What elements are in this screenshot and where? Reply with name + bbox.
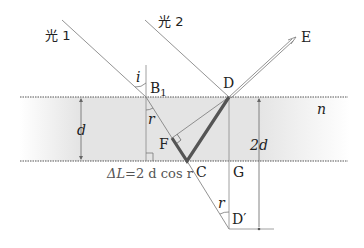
point-label-c: C [196, 164, 207, 180]
angle-label-r-bottom: r [218, 195, 226, 211]
arrowhead-e [288, 37, 296, 44]
reflected-ray-de-1 [229, 39, 292, 97]
thin-film-diagram: 光 1 光 2 i B1 r D E n d F 2d ΔL=2 d cos r… [0, 0, 364, 248]
angle-arc-r-bottom [220, 212, 229, 214]
point-label-d: D [223, 75, 234, 91]
thickness-label: d [77, 122, 86, 138]
double-thickness-label: 2d [249, 137, 268, 153]
point-label-d-prime: D′ [232, 211, 246, 227]
ray-2-label: 光 2 [158, 14, 183, 29]
point-label-g: G [233, 164, 244, 180]
ray-1-incident [62, 20, 146, 97]
ray-1-label: 光 1 [45, 28, 70, 43]
point-label-e: E [301, 29, 311, 45]
path-difference-formula: ΔL=2 d cos r [106, 166, 194, 181]
point-label-b1: B1 [150, 80, 167, 98]
angle-label-i: i [136, 69, 140, 85]
refractive-index-label: n [317, 101, 326, 117]
double-thickness-end-dot [258, 228, 261, 231]
point-label-f: F [159, 136, 169, 152]
reflected-ray-de-2 [231, 41, 293, 98]
